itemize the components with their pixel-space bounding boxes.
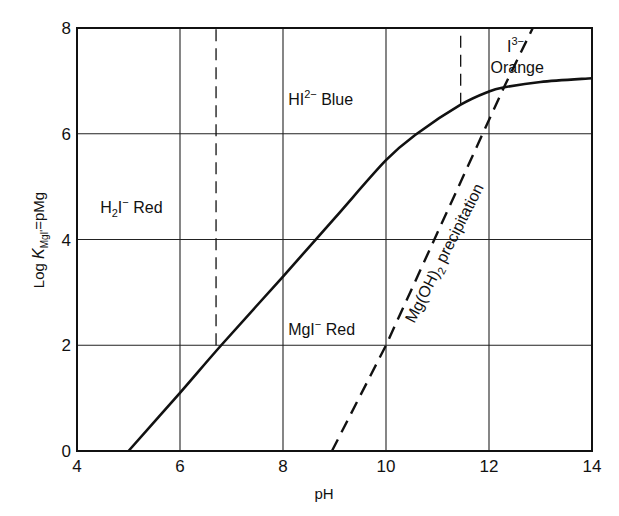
region-label-mgi: MgI− Red — [288, 318, 355, 338]
y-tick-label: 6 — [62, 125, 71, 144]
y-axis-ticks: 02468 — [62, 19, 71, 461]
y-tick-label: 2 — [62, 336, 71, 355]
svg-text:H2I− Red: H2I− Red — [100, 196, 162, 219]
y-axis-title: Log KMgI'=pMg — [30, 192, 50, 288]
region-label-hi2: HI2− Blue — [288, 88, 353, 108]
x-tick-label: 12 — [480, 457, 499, 476]
x-tick-label: 4 — [72, 457, 81, 476]
y-tick-label: 4 — [62, 231, 71, 250]
svg-text:Orange: Orange — [491, 59, 544, 76]
svg-text:Mg(OH)2 precipitation: Mg(OH)2 precipitation — [402, 181, 490, 327]
x-tick-label: 10 — [377, 457, 396, 476]
x-tick-label: 6 — [175, 457, 184, 476]
x-tick-label: 14 — [583, 457, 602, 476]
region-label-i3: I3−Orange — [491, 35, 544, 76]
svg-text:MgI− Red: MgI− Red — [288, 318, 355, 338]
region-label-mgoh: Mg(OH)2 precipitation — [402, 181, 490, 327]
region-label-h2i: H2I− Red — [100, 196, 162, 219]
svg-text:HI2− Blue: HI2− Blue — [288, 88, 353, 108]
x-tick-label: 8 — [278, 457, 287, 476]
x-axis-ticks: 468101214 — [72, 457, 601, 476]
y-tick-label: 0 — [62, 442, 71, 461]
region-labels: H2I− RedHI2− BlueMgI− RedI3−OrangeMg(OH)… — [100, 35, 544, 338]
chart: 468101214 02468 H2I− RedHI2− BlueMgI− Re… — [0, 0, 619, 516]
x-axis-title: pH — [314, 485, 333, 502]
y-tick-label: 8 — [62, 19, 71, 38]
